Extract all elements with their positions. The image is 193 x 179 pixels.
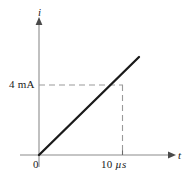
current-ramp-line <box>39 57 139 155</box>
x-tick-label-10us: 10 µs <box>101 159 126 170</box>
y-axis-arrowhead <box>36 17 43 25</box>
y-axis-label: i <box>38 7 41 18</box>
origin-label: 0 <box>33 159 39 170</box>
x-tick-value: 10 <box>101 158 115 170</box>
x-axis-label: t <box>178 150 181 161</box>
waveform-figure: i t 0 4 mA 10 µs <box>0 0 193 179</box>
x-tick-unit: µs <box>115 158 126 170</box>
x-axis-arrowhead <box>168 152 176 159</box>
y-tick-label-4ma: 4 mA <box>9 79 35 90</box>
